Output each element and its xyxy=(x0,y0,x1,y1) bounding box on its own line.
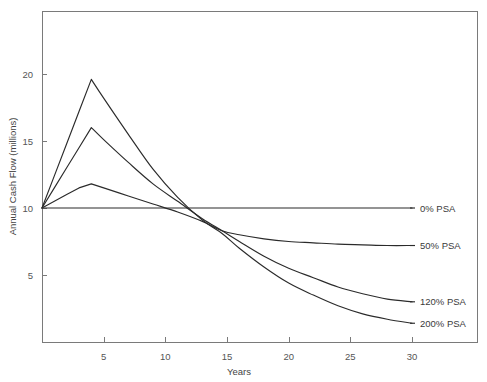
series-label-200-psa: 200% PSA xyxy=(420,318,467,329)
y-tick-label: 20 xyxy=(22,69,33,80)
x-tick-label: 10 xyxy=(160,351,171,362)
plot-frame xyxy=(43,12,478,343)
plot-border xyxy=(43,12,478,343)
x-tick-label: 25 xyxy=(345,351,356,362)
x-tick-label: 20 xyxy=(283,351,294,362)
y-tick-label: 5 xyxy=(28,270,33,281)
axis-titles: YearsAnnual Cash Flow (millions) xyxy=(7,118,251,377)
x-tick-label: 15 xyxy=(222,351,233,362)
x-tick-label: 30 xyxy=(407,351,418,362)
y-tick-label: 15 xyxy=(22,136,33,147)
cash-flow-line-chart: 0% PSA50% PSA120% PSA200% PSA 5101520253… xyxy=(0,0,487,382)
series-lines xyxy=(42,79,412,323)
chart-container: 0% PSA50% PSA120% PSA200% PSA 5101520253… xyxy=(0,0,487,382)
series-line-50-psa xyxy=(42,184,412,246)
y-tick-label: 10 xyxy=(22,203,33,214)
y-axis-title: Annual Cash Flow (millions) xyxy=(7,118,18,236)
axis-tick-labels: 510152025305101520 xyxy=(22,69,417,363)
series-label-50-psa: 50% PSA xyxy=(420,240,461,251)
series-line-200-psa xyxy=(42,79,412,323)
x-axis-title: Years xyxy=(227,366,251,377)
series-line-120-psa xyxy=(42,128,412,302)
series-label-120-psa: 120% PSA xyxy=(420,296,467,307)
x-tick-label: 5 xyxy=(101,351,106,362)
series-labels: 0% PSA50% PSA120% PSA200% PSA xyxy=(410,203,467,329)
series-label-0-psa: 0% PSA xyxy=(420,203,456,214)
